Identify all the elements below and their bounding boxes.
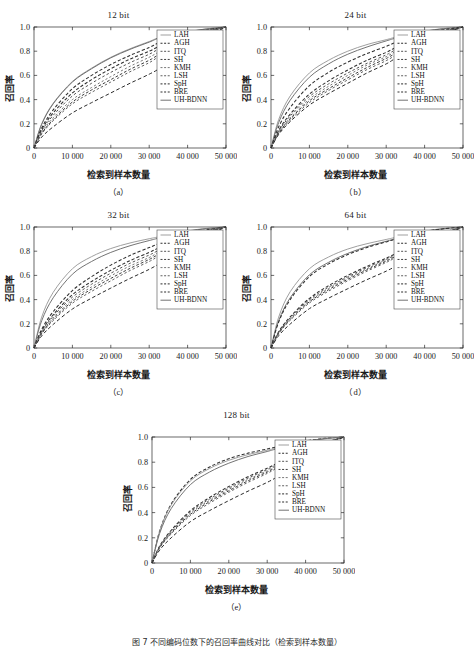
svg-text:LSH: LSH — [292, 482, 306, 490]
svg-text:1.0: 1.0 — [20, 23, 30, 32]
svg-text:BRE: BRE — [411, 88, 426, 96]
x-axis-label-d: 检索到样本数量 — [237, 368, 474, 381]
panel-caption-e: （e） — [118, 600, 355, 612]
chart-panel-c: 32 bit 召回率 010 00020 00030 00040 00050 0… — [0, 200, 237, 400]
svg-text:0.6: 0.6 — [20, 271, 30, 280]
svg-text:0.2: 0.2 — [257, 320, 267, 329]
svg-text:0: 0 — [26, 344, 30, 353]
svg-text:10 000: 10 000 — [61, 152, 84, 161]
svg-text:0: 0 — [269, 152, 273, 161]
svg-text:30 000: 30 000 — [256, 567, 279, 576]
chart-panel-d: 64 bit 召回率 010 00020 00030 00040 00050 0… — [237, 200, 474, 400]
svg-text:SpH: SpH — [174, 280, 187, 288]
svg-text:0.6: 0.6 — [257, 71, 267, 80]
svg-text:50 000: 50 000 — [215, 352, 237, 361]
svg-text:0.4: 0.4 — [138, 509, 148, 518]
svg-text:LAH: LAH — [174, 231, 189, 239]
svg-text:10 000: 10 000 — [298, 152, 321, 161]
figure-root: 12 bit 召回率 010 00020 00030 00040 00050 0… — [0, 0, 474, 648]
svg-text:AGH: AGH — [411, 239, 427, 247]
svg-text:0.8: 0.8 — [138, 458, 148, 467]
svg-text:10 000: 10 000 — [179, 567, 202, 576]
svg-text:UH-BDNN: UH-BDNN — [411, 296, 445, 304]
svg-text:20 000: 20 000 — [100, 352, 123, 361]
svg-text:SH: SH — [411, 256, 420, 264]
svg-text:0: 0 — [26, 144, 30, 153]
svg-text:0.8: 0.8 — [257, 247, 267, 256]
svg-text:0: 0 — [269, 352, 273, 361]
svg-text:KMH: KMH — [292, 474, 309, 482]
svg-text:0: 0 — [32, 352, 36, 361]
svg-text:40 000: 40 000 — [294, 567, 317, 576]
svg-text:AGH: AGH — [411, 39, 427, 47]
panel-caption-b: （b） — [237, 185, 474, 197]
svg-text:LSH: LSH — [174, 72, 188, 80]
svg-text:AGH: AGH — [174, 239, 190, 247]
svg-text:30 000: 30 000 — [138, 352, 161, 361]
svg-text:0.6: 0.6 — [257, 271, 267, 280]
svg-text:40 000: 40 000 — [413, 352, 436, 361]
x-axis-label-b: 检索到样本数量 — [237, 168, 474, 181]
panel-caption-d: （d） — [237, 385, 474, 397]
svg-text:0.4: 0.4 — [20, 96, 30, 105]
svg-text:0.4: 0.4 — [257, 96, 267, 105]
svg-text:1.0: 1.0 — [138, 433, 148, 442]
svg-text:KMH: KMH — [174, 264, 191, 272]
svg-text:20 000: 20 000 — [337, 352, 360, 361]
svg-text:SpH: SpH — [411, 280, 424, 288]
svg-text:LSH: LSH — [411, 72, 425, 80]
svg-text:1.0: 1.0 — [257, 223, 267, 232]
svg-text:AGH: AGH — [174, 39, 190, 47]
svg-text:SpH: SpH — [174, 80, 187, 88]
svg-text:BRE: BRE — [174, 288, 189, 296]
svg-text:0: 0 — [150, 567, 154, 576]
chart-panel-b: 24 bit 召回率 010 00020 00030 00040 00050 0… — [237, 0, 474, 200]
svg-text:0.4: 0.4 — [20, 296, 30, 305]
svg-text:UH-BDNN: UH-BDNN — [174, 296, 208, 304]
svg-text:40 000: 40 000 — [176, 152, 199, 161]
svg-text:KMH: KMH — [411, 64, 428, 72]
svg-text:0.2: 0.2 — [257, 120, 267, 129]
svg-text:30 000: 30 000 — [375, 352, 398, 361]
svg-text:50 000: 50 000 — [333, 567, 355, 576]
svg-text:0: 0 — [144, 559, 148, 568]
svg-text:0: 0 — [32, 152, 36, 161]
svg-text:ITQ: ITQ — [292, 458, 305, 466]
svg-text:30 000: 30 000 — [375, 152, 398, 161]
svg-text:SH: SH — [411, 56, 420, 64]
svg-text:0: 0 — [263, 144, 267, 153]
svg-text:ITQ: ITQ — [411, 248, 424, 256]
svg-text:BRE: BRE — [292, 498, 307, 506]
svg-text:SH: SH — [174, 256, 183, 264]
svg-text:20 000: 20 000 — [218, 567, 241, 576]
svg-text:LSH: LSH — [411, 272, 425, 280]
svg-text:50 000: 50 000 — [215, 152, 237, 161]
svg-text:20 000: 20 000 — [100, 152, 123, 161]
svg-text:SH: SH — [174, 56, 183, 64]
svg-text:0: 0 — [263, 344, 267, 353]
svg-text:20 000: 20 000 — [337, 152, 360, 161]
chart-panel-e: 128 bit 召回率 010 00020 00030 00040 00050 … — [118, 400, 355, 615]
svg-text:LAH: LAH — [411, 231, 426, 239]
svg-text:0.2: 0.2 — [138, 534, 148, 543]
svg-text:KMH: KMH — [411, 264, 428, 272]
svg-text:UH-BDNN: UH-BDNN — [292, 506, 326, 514]
svg-text:LAH: LAH — [292, 441, 307, 449]
svg-text:1.0: 1.0 — [20, 223, 30, 232]
svg-text:50 000: 50 000 — [452, 152, 474, 161]
svg-text:LAH: LAH — [174, 31, 189, 39]
svg-text:50 000: 50 000 — [452, 352, 474, 361]
svg-text:30 000: 30 000 — [138, 152, 161, 161]
chart-panel-a: 12 bit 召回率 010 00020 00030 00040 00050 0… — [0, 0, 237, 200]
svg-text:BRE: BRE — [174, 88, 189, 96]
svg-text:ITQ: ITQ — [174, 48, 187, 56]
svg-text:LAH: LAH — [411, 31, 426, 39]
svg-text:0.8: 0.8 — [257, 47, 267, 56]
svg-text:0.2: 0.2 — [20, 120, 30, 129]
svg-text:40 000: 40 000 — [176, 352, 199, 361]
panel-caption-a: （a） — [0, 185, 237, 197]
x-axis-label-c: 检索到样本数量 — [0, 368, 237, 381]
x-axis-label-e: 检索到样本数量 — [118, 583, 355, 596]
svg-text:SpH: SpH — [411, 80, 424, 88]
panel-caption-c: （c） — [0, 385, 237, 397]
